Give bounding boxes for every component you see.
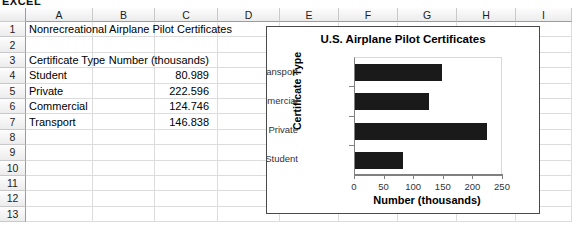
chart-x-tick <box>354 174 355 179</box>
cell-a4[interactable]: Student <box>26 68 93 83</box>
chart-x-tick-label: 100 <box>398 181 428 192</box>
cell-c13[interactable] <box>155 207 218 222</box>
cell-b9[interactable] <box>93 145 155 160</box>
cell-b7[interactable] <box>93 114 155 129</box>
row-header-7[interactable]: 7 <box>0 114 26 129</box>
column-header-d[interactable]: D <box>218 8 280 22</box>
cell-a5[interactable]: Private <box>26 84 93 99</box>
column-header-a[interactable]: A <box>26 8 93 22</box>
row-header-5[interactable]: 5 <box>0 84 26 99</box>
chart-y-tick <box>349 116 354 117</box>
cell-a1-text: Nonrecreational Airplane Pilot Certifica… <box>29 23 232 35</box>
chart-x-tick-label: 200 <box>457 181 487 192</box>
column-header-h[interactable]: H <box>457 8 516 22</box>
cell-c2[interactable] <box>155 37 218 52</box>
cell-c7[interactable]: 146.838 <box>155 114 218 129</box>
chart-x-tick <box>502 174 503 179</box>
cell-a12[interactable] <box>26 191 93 206</box>
cell-b13[interactable] <box>93 207 155 222</box>
row-header-12[interactable]: 12 <box>0 191 26 206</box>
cell-b2[interactable] <box>93 37 155 52</box>
column-header-b[interactable]: B <box>93 8 155 22</box>
cell-c4[interactable]: 80.989 <box>155 68 218 83</box>
column-header-e[interactable]: E <box>280 8 339 22</box>
column-header-row: A B C D E F G H I <box>0 8 546 22</box>
chart-bar-private[interactable] <box>355 123 487 140</box>
chart-x-tick-label: 50 <box>369 181 399 192</box>
chart-x-axis-title: Number (thousands) <box>327 194 527 206</box>
column-header-c[interactable]: C <box>155 8 218 22</box>
row-header-6[interactable]: 6 <box>0 99 26 114</box>
cell-c9[interactable] <box>155 145 218 160</box>
chart-bar-student[interactable] <box>355 152 403 169</box>
row-header-2[interactable]: 2 <box>0 37 26 52</box>
chart-bar-transport[interactable] <box>355 64 442 81</box>
cell-b10[interactable] <box>93 161 155 176</box>
cell-c12[interactable] <box>155 191 218 206</box>
select-all-corner[interactable] <box>0 8 26 22</box>
chart-x-tick <box>472 174 473 179</box>
cell-b6[interactable] <box>93 99 155 114</box>
cell-c3-text: Number (thousands) <box>109 54 209 66</box>
chart-category-label-transport: Transport <box>266 67 298 77</box>
chart-y-tick <box>349 86 354 87</box>
chart-category-label-private: Private <box>266 125 298 135</box>
column-header-i[interactable]: I <box>516 8 572 22</box>
chart-x-tick-label: 250 <box>487 181 517 192</box>
chart-category-label-student: Student <box>266 154 298 164</box>
cell-c5[interactable]: 222.596 <box>155 84 218 99</box>
cell-a10[interactable] <box>26 161 93 176</box>
cell-c10[interactable] <box>155 161 218 176</box>
excel-caption: EXCEL <box>2 0 41 7</box>
cell-b5[interactable] <box>93 84 155 99</box>
cell-c3[interactable]: Number (thousands) <box>155 53 218 68</box>
cell-a9[interactable] <box>26 145 93 160</box>
row-header-11[interactable]: 11 <box>0 176 26 191</box>
cell-a7[interactable]: Transport <box>26 114 93 129</box>
cell-a8[interactable] <box>26 130 93 145</box>
column-header-g[interactable]: G <box>398 8 457 22</box>
cell-b12[interactable] <box>93 191 155 206</box>
chart-x-tick <box>413 174 414 179</box>
cell-b11[interactable] <box>93 176 155 191</box>
row-header-8[interactable]: 8 <box>0 130 26 145</box>
cell-c6[interactable]: 124.746 <box>155 99 218 114</box>
chart-x-tick <box>443 174 444 179</box>
row-header-3[interactable]: 3 <box>0 53 26 68</box>
cell-c11[interactable] <box>155 176 218 191</box>
row-header-13[interactable]: 13 <box>0 207 26 222</box>
embedded-bar-chart[interactable]: U.S. Airplane Pilot Certificates Certifi… <box>266 26 540 214</box>
cell-a1[interactable]: Nonrecreational Airplane Pilot Certifica… <box>26 22 93 37</box>
chart-category-label-commercial: Commercial <box>266 96 298 106</box>
column-header-f[interactable]: F <box>339 8 398 22</box>
row-header-9[interactable]: 9 <box>0 145 26 160</box>
cell-c8[interactable] <box>155 130 218 145</box>
chart-plot-area <box>354 57 502 174</box>
chart-x-tick <box>384 174 385 179</box>
chart-y-tick <box>349 145 354 146</box>
cell-a3[interactable]: Certificate Type <box>26 53 93 68</box>
chart-x-axis-line <box>354 174 502 176</box>
chart-bar-commercial[interactable] <box>355 93 429 110</box>
chart-x-tick-label: 150 <box>428 181 458 192</box>
cell-a6[interactable]: Commercial <box>26 99 93 114</box>
cell-a2[interactable] <box>26 37 93 52</box>
chart-x-tick-label: 0 <box>339 181 369 192</box>
cell-b8[interactable] <box>93 130 155 145</box>
cell-b4[interactable] <box>93 68 155 83</box>
row-header-1[interactable]: 1 <box>0 22 26 37</box>
row-header-10[interactable]: 10 <box>0 161 26 176</box>
row-header-4[interactable]: 4 <box>0 68 26 83</box>
cell-a13[interactable] <box>26 207 93 222</box>
chart-title: U.S. Airplane Pilot Certificates <box>267 33 539 45</box>
cell-a11[interactable] <box>26 176 93 191</box>
